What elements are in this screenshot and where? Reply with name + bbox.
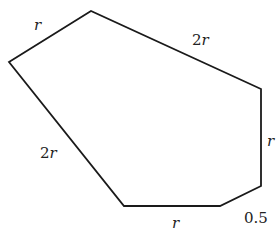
diagram-canvas: r 2r r 0.5 r 2r <box>0 0 278 239</box>
label-top-right-edge: 2r <box>192 31 210 49</box>
label-top-left-edge: r <box>34 16 42 34</box>
label-bottom-edge: r <box>172 214 180 232</box>
label-bottom-right-short-edge: 0.5 <box>244 209 268 227</box>
label-left-edge: 2r <box>40 144 58 162</box>
label-right-edge: r <box>267 132 275 150</box>
hexagon-shape <box>9 11 261 206</box>
polygon-diagram: r 2r r 0.5 r 2r <box>0 0 278 239</box>
